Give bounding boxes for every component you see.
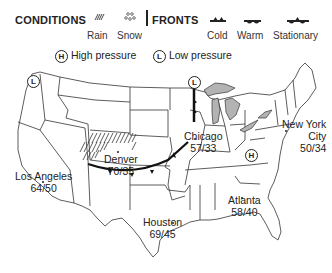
low-pressure-marker-midwest: L (188, 76, 201, 89)
city-name: Atlanta (228, 194, 261, 206)
city-name: Los Angeles (15, 170, 72, 182)
city-los-angeles: Los Angeles 64/50 (15, 170, 72, 194)
conditions-title: CONDITIONS (15, 14, 86, 26)
city-atlanta: Atlanta 58/40 (228, 194, 261, 218)
legend-rain-label: Rain (87, 30, 108, 41)
city-temps: 64/50 (15, 182, 72, 194)
city-temps: 70/35 (104, 165, 138, 177)
low-pressure-symbol: L (153, 50, 166, 63)
city-houston: Houston 69/45 (143, 216, 182, 240)
low-pressure-label: Low pressure (169, 49, 232, 61)
city-name: Denver (104, 153, 138, 165)
city-chicago: Chicago 57/33 (184, 130, 223, 154)
legend-low-pressure: L Low pressure (153, 49, 232, 63)
low-pressure-marker-northwest: L (27, 75, 40, 88)
city-denver: Denver 70/35 (104, 153, 138, 177)
city-temps: 69/45 (143, 228, 182, 240)
legend-warm-label: Warm (237, 30, 263, 41)
city-temps: 57/33 (184, 142, 223, 154)
high-pressure-label: High pressure (71, 49, 136, 61)
high-pressure-symbol: H (55, 50, 68, 63)
legend-snow-label: Snow (117, 30, 142, 41)
city-new-york: New York City 50/34 (282, 118, 326, 154)
city-temps: 58/40 (228, 206, 261, 218)
legend-high-pressure: H High pressure (55, 49, 136, 63)
legend-divider (146, 10, 148, 26)
legend-cold-label: Cold (207, 30, 228, 41)
fronts-title: FRONTS (152, 14, 198, 26)
city-name: Chicago (184, 130, 223, 142)
city-temps: 50/34 (282, 142, 326, 154)
city-name: Houston (143, 216, 182, 228)
city-name-line1: New York (282, 118, 326, 130)
city-name-line2: City (282, 130, 326, 142)
legend-stationary-label: Stationary (273, 30, 318, 41)
high-pressure-marker-ohio: H (245, 149, 258, 162)
